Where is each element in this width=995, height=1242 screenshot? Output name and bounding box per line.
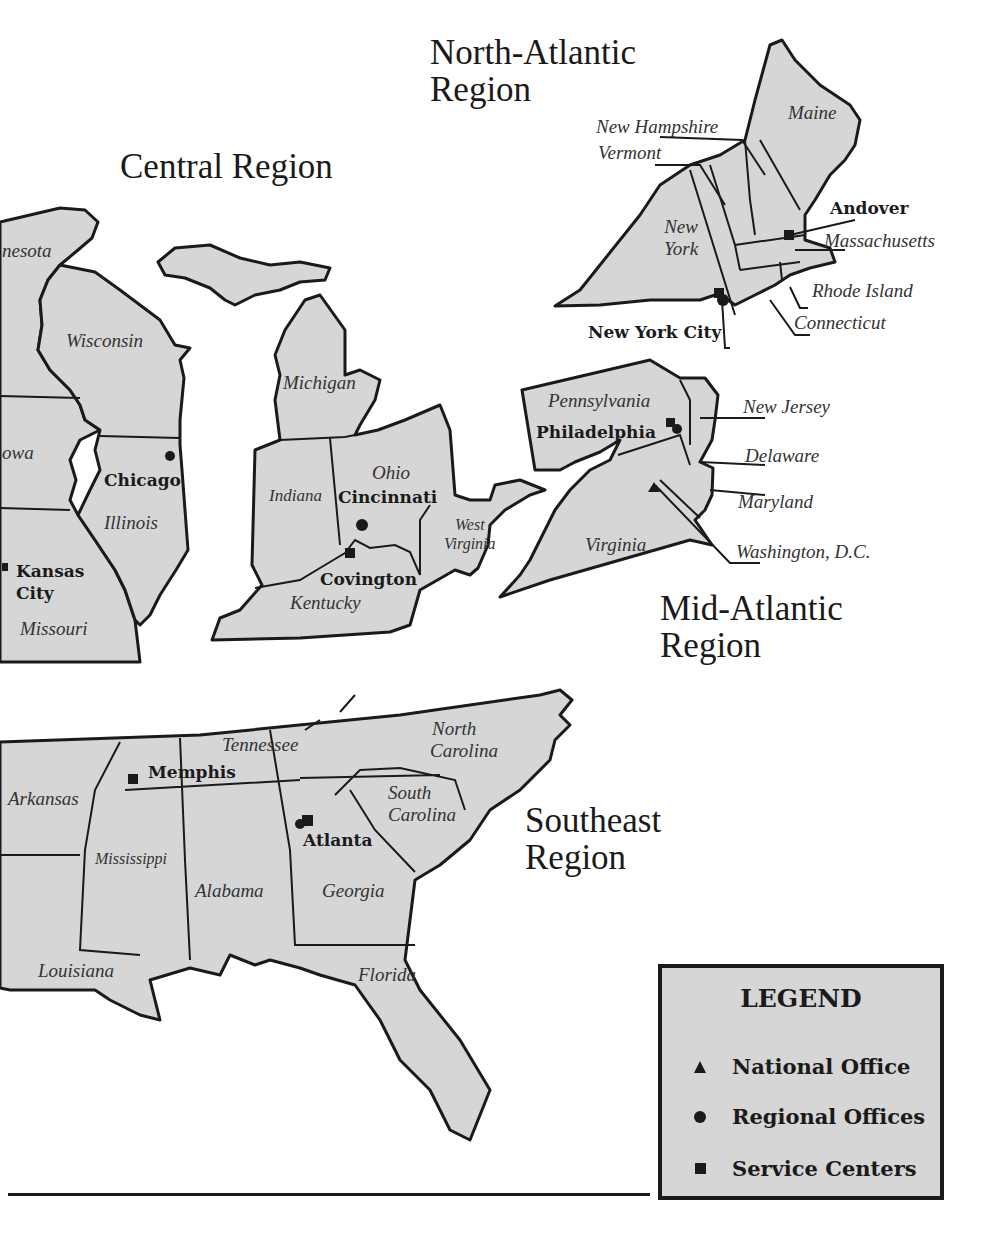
state-label-pennsylvania: Pennsylvania — [548, 390, 650, 412]
state-label-virginia: Virginia — [585, 534, 646, 556]
regional-office-marker-philadelphia — [672, 424, 682, 434]
state-label-rhode-island: Rhode Island — [812, 280, 913, 302]
state-label-line: West — [444, 515, 496, 534]
triangle-icon — [690, 1061, 710, 1073]
regional-office-marker-atlanta — [295, 819, 305, 829]
region-title-central: Central Region — [120, 148, 333, 185]
state-label-maryland: Maryland — [738, 491, 813, 513]
state-label-washington-dc: Washington, D.C. — [736, 541, 870, 563]
region-title-line: Southeast — [525, 802, 661, 839]
state-label-georgia: Georgia — [322, 880, 385, 902]
state-label-vermont: Vermont — [598, 142, 661, 164]
city-label-new-york-city: New York City — [588, 322, 721, 342]
state-label-minnesota: nesota — [2, 240, 52, 262]
square-icon — [690, 1163, 710, 1174]
city-label-memphis: Memphis — [148, 762, 236, 782]
state-label-new-york: New York — [664, 216, 698, 260]
legend-item-service-centers: Service Centers — [690, 1156, 917, 1181]
region-title-line: Mid-Atlantic — [660, 590, 843, 627]
state-label-south-carolina: South Carolina — [388, 782, 456, 826]
state-label-maine: Maine — [788, 102, 837, 124]
service-center-marker-kansas-city — [2, 563, 8, 571]
state-label-arkansas: Arkansas — [8, 788, 79, 810]
state-label-line: York — [664, 238, 698, 260]
region-title-line: Region — [525, 839, 661, 876]
service-center-marker-memphis — [128, 774, 138, 784]
city-label-chicago: Chicago — [104, 470, 181, 490]
city-label-andover: Andover — [830, 198, 908, 218]
state-label-florida: Florida — [358, 964, 416, 986]
state-label-line: North — [432, 718, 498, 740]
region-title-line: Region — [430, 71, 636, 108]
upper-peninsula — [158, 245, 330, 305]
city-label-philadelphia: Philadelphia — [536, 422, 656, 442]
legend-item-label: Regional Offices — [732, 1104, 925, 1129]
regional-office-marker-new-york-city — [717, 294, 729, 306]
city-label-cincinnati: Cincinnati — [338, 487, 437, 507]
state-label-alabama: Alabama — [195, 880, 264, 902]
state-label-missouri: Missouri — [20, 618, 88, 640]
state-label-west-virginia: West Virginia — [444, 515, 496, 553]
legend-title: LEGEND — [662, 984, 940, 1013]
regional-office-marker-cincinnati — [356, 519, 368, 531]
state-label-mississippi: Mississippi — [95, 850, 167, 868]
state-label-line: New — [664, 216, 698, 238]
city-label-line: City — [16, 582, 84, 604]
state-label-iowa: owa — [2, 442, 34, 464]
state-label-line: South — [388, 782, 456, 804]
city-label-line: Kansas — [16, 560, 84, 582]
state-label-michigan: Michigan — [283, 372, 356, 394]
state-label-line: Virginia — [444, 534, 496, 553]
state-label-wisconsin: Wisconsin — [66, 330, 143, 352]
circle-icon — [690, 1111, 710, 1123]
legend-item-regional-offices: Regional Offices — [690, 1104, 925, 1129]
legend-item-label: Service Centers — [732, 1156, 917, 1181]
city-label-kansas-city: Kansas City — [16, 560, 84, 604]
service-center-marker-andover — [784, 230, 794, 240]
state-label-kentucky: Kentucky — [290, 592, 361, 614]
region-title-mid-atlantic: Mid-Atlantic Region — [660, 590, 843, 664]
service-center-marker-covington — [345, 548, 355, 558]
state-label-massachusetts: Massachusetts — [824, 230, 935, 252]
region-title-southeast: Southeast Region — [525, 802, 661, 876]
state-label-ohio: Ohio — [372, 462, 410, 484]
state-label-louisiana: Louisiana — [38, 960, 114, 982]
city-label-atlanta: Atlanta — [303, 830, 372, 850]
regional-office-marker-chicago — [165, 451, 175, 461]
region-title-line: Region — [660, 627, 843, 664]
state-label-line: Carolina — [430, 740, 498, 762]
region-title-line: North-Atlantic — [430, 34, 636, 71]
state-label-line: Carolina — [388, 804, 456, 826]
state-label-indiana: Indiana — [269, 486, 322, 506]
state-label-north-carolina: North Carolina — [432, 718, 498, 762]
state-label-connecticut: Connecticut — [794, 312, 886, 334]
state-label-new-hampshire: New Hampshire — [596, 116, 718, 138]
region-title-north-atlantic: North-Atlantic Region — [430, 34, 636, 108]
state-label-new-jersey: New Jersey — [743, 396, 830, 418]
city-label-covington: Covington — [320, 569, 417, 589]
state-label-tennessee: Tennessee — [222, 734, 298, 756]
state-label-delaware: Delaware — [745, 445, 819, 467]
state-label-illinois: Illinois — [104, 512, 158, 534]
legend-item-national-office: National Office — [690, 1054, 910, 1079]
legend-item-label: National Office — [732, 1054, 910, 1079]
bottom-rule — [8, 1193, 650, 1196]
legend-box: LEGEND National Office Regional Offices … — [658, 964, 944, 1200]
